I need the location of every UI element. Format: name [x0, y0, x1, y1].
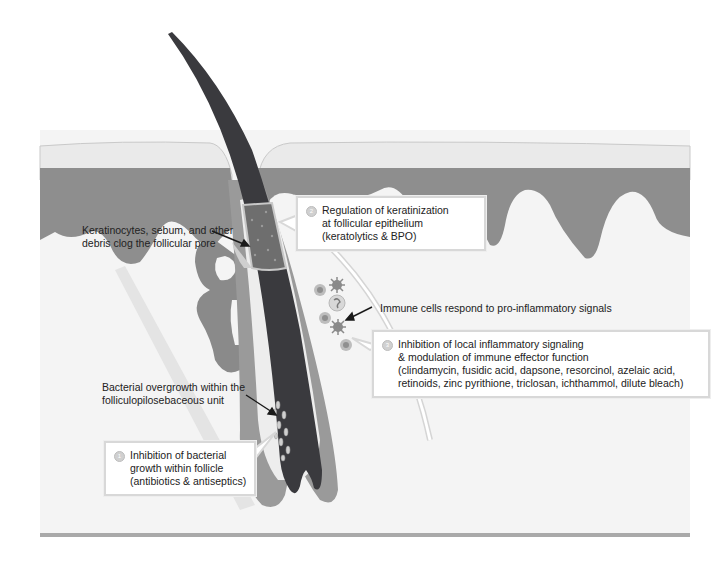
follicle-diagram: Keratinocytes, sebum, and other debris c…: [0, 0, 727, 566]
number-badge-icon: 2: [306, 206, 317, 217]
inflammation-callout: 3 Inhibition of local inflammatory signa…: [372, 330, 710, 398]
clog-label: Keratinocytes, sebum, and other debris c…: [82, 224, 233, 250]
keratinization-callout: 2 Regulation of keratinization at follic…: [296, 196, 486, 251]
number-badge-icon: 1: [114, 451, 125, 462]
immune-label: Immune cells respond to pro-inflammatory…: [380, 302, 612, 315]
number-badge-icon: 3: [382, 340, 393, 351]
bacterial-growth-callout: 1 Inhibition of bacterial growth within …: [104, 441, 256, 496]
base-line: [40, 533, 690, 537]
bacterial-overgrowth-label: Bacterial overgrowth within the follicul…: [102, 381, 245, 407]
